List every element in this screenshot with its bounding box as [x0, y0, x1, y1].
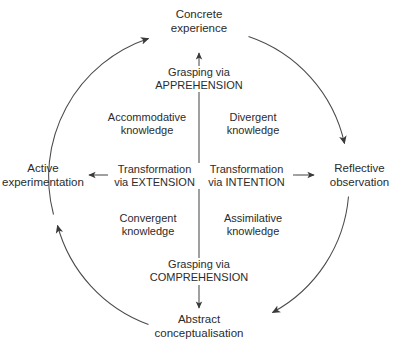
axis-label-grasping-via-apprehension: Grasping via APPREHENSION [144, 66, 254, 92]
axis-bottom-line1: Grasping via [140, 258, 258, 271]
pole-right-line1: Reflective [320, 162, 399, 176]
axis-right-line1: Transformation [200, 163, 293, 176]
axis-label-transformation-via-extension: Transformation via EXTENSION [108, 163, 201, 189]
quadrant-label-convergent-knowledge: Convergent knowledge [104, 212, 192, 238]
quadrant-label-accommodative-knowledge: Accommodative knowledge [99, 111, 195, 137]
quad-br-line2: knowledge [209, 225, 297, 238]
pole-label-concrete-experience: Concrete experience [149, 8, 249, 35]
pole-label-reflective-observation: Reflective observation [320, 162, 399, 189]
pole-right-line2: observation [320, 176, 399, 190]
pole-top-line1: Concrete [149, 8, 249, 22]
arc-bottom-to-left [58, 226, 149, 325]
axis-top-line1: Grasping via [144, 66, 254, 79]
axis-label-transformation-via-intention: Transformation via INTENTION [200, 163, 293, 189]
kolb-learning-cycle-diagram: Concrete experience Reflective observati… [0, 0, 399, 359]
quad-bl-line2: knowledge [104, 225, 192, 238]
quad-tr-line1: Divergent [209, 111, 297, 124]
axis-top-line2: APPREHENSION [144, 79, 254, 92]
quad-tr-line2: knowledge [209, 124, 297, 137]
quad-bl-line1: Convergent [104, 212, 192, 225]
axis-label-grasping-via-comprehension: Grasping via COMPREHENSION [140, 258, 258, 284]
pole-left-line2: experimentation [0, 176, 86, 190]
quadrant-label-assimilative-knowledge: Assimilative knowledge [209, 212, 297, 238]
pole-label-abstract-conceptualisation: Abstract conceptualisation [134, 313, 264, 340]
axis-bottom-line2: COMPREHENSION [140, 271, 258, 284]
quad-br-line1: Assimilative [209, 212, 297, 225]
axis-left-line1: Transformation [108, 163, 201, 176]
axis-right-line2: via INTENTION [200, 176, 293, 189]
pole-top-line2: experience [149, 22, 249, 36]
quad-tl-line2: knowledge [99, 124, 195, 137]
axis-left-line2: via EXTENSION [108, 176, 201, 189]
quadrant-label-divergent-knowledge: Divergent knowledge [209, 111, 297, 137]
pole-bottom-line1: Abstract [134, 313, 264, 327]
pole-label-active-experimentation: Active experimentation [0, 162, 86, 189]
pole-bottom-line2: conceptualisation [134, 327, 264, 341]
pole-left-line1: Active [0, 162, 86, 176]
quad-tl-line1: Accommodative [99, 111, 195, 124]
